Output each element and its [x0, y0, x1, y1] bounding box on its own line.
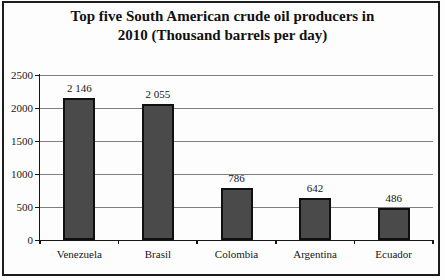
bar-value-label: 2 055 — [118, 88, 198, 100]
gridline — [40, 141, 433, 142]
y-tick-label: 1000 — [0, 168, 33, 180]
bar-value-label: 786 — [197, 172, 277, 184]
y-tick-label: 500 — [0, 201, 33, 213]
y-axis — [39, 74, 41, 240]
gridline — [40, 75, 433, 76]
y-tick-label: 2500 — [0, 69, 33, 81]
x-tick — [432, 240, 434, 244]
category-label: Venezuela — [34, 248, 124, 261]
x-tick — [354, 240, 356, 244]
chart-title-line2: 2010 (Thousand barrels per day) — [0, 26, 445, 45]
bar-value-label: 642 — [275, 182, 355, 194]
chart-title: Top five South American crude oil produc… — [0, 7, 445, 45]
category-label: Colombia — [192, 248, 282, 261]
category-label: Argentina — [270, 248, 360, 261]
bar-colombia — [221, 188, 253, 240]
x-tick — [196, 240, 198, 244]
bar-brasil — [142, 104, 174, 240]
y-tick-label: 2000 — [0, 102, 33, 114]
bar-ecuador — [378, 208, 410, 240]
bar-value-label: 2 146 — [39, 82, 119, 94]
x-tick — [275, 240, 277, 244]
y-tick-label: 0 — [0, 234, 33, 246]
category-label: Ecuador — [349, 248, 439, 261]
y-tick-label: 1500 — [0, 135, 33, 147]
chart-image: Top five South American crude oil produc… — [0, 0, 445, 280]
bar-value-label: 486 — [354, 192, 434, 204]
x-tick — [39, 240, 41, 244]
x-tick — [118, 240, 120, 244]
bar-venezuela — [63, 98, 95, 240]
bar-argentina — [299, 198, 331, 240]
chart-title-line1: Top five South American crude oil produc… — [0, 7, 445, 26]
gridline — [40, 108, 433, 109]
category-label: Brasil — [113, 248, 203, 261]
